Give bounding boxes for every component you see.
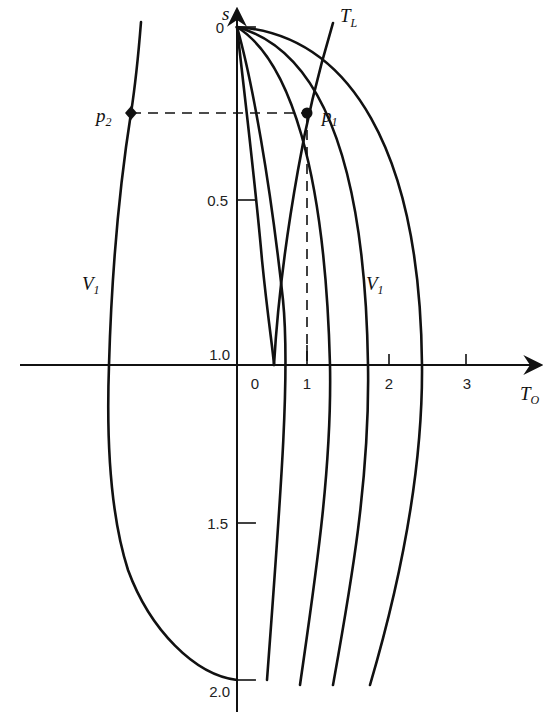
to-tick-1: 1 [303, 375, 311, 392]
family-curve-3 [237, 27, 368, 685]
family-curve-2 [237, 27, 330, 685]
family-curve-0 [237, 27, 274, 365]
p2-point [125, 106, 137, 120]
phase-diagram: 0 0.5 1.0 1.5 2.0 0 1 2 3 s TO p1 p2 TL … [0, 0, 558, 721]
s-tick-1.5: 1.5 [207, 515, 228, 532]
p1-point [302, 108, 313, 119]
to-tick-3: 3 [463, 375, 471, 392]
to-axis-label: TO [520, 383, 540, 407]
v1-left-label: V1 [82, 273, 100, 297]
v1-right-label: V1 [366, 273, 384, 297]
s-axis-ticks [237, 27, 256, 680]
s-tick-1.0: 1.0 [209, 346, 230, 363]
to-tick-2: 2 [385, 375, 393, 392]
p2-label: p2 [94, 105, 112, 129]
p1-label: p1 [320, 105, 338, 129]
s-tick-0.5: 0.5 [207, 192, 228, 209]
family-curve-1 [237, 27, 286, 680]
to-tick-0: 0 [251, 375, 259, 392]
s-axis-label: s [222, 3, 229, 24]
s-tick-2.0: 2.0 [209, 683, 230, 700]
tl-label: TL [340, 5, 358, 30]
